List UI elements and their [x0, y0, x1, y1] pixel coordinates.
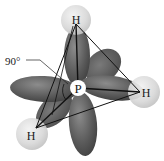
- ph3-orbital-diagram: P H H H 90°: [0, 0, 164, 161]
- diagram-canvas: P H H H 90°: [0, 0, 164, 161]
- h-label-top: H: [72, 13, 81, 27]
- h-label-bottom-left: H: [27, 129, 36, 143]
- angle-label: 90°: [5, 55, 20, 67]
- p-atom-label: P: [74, 81, 81, 96]
- h-label-right: H: [142, 86, 151, 100]
